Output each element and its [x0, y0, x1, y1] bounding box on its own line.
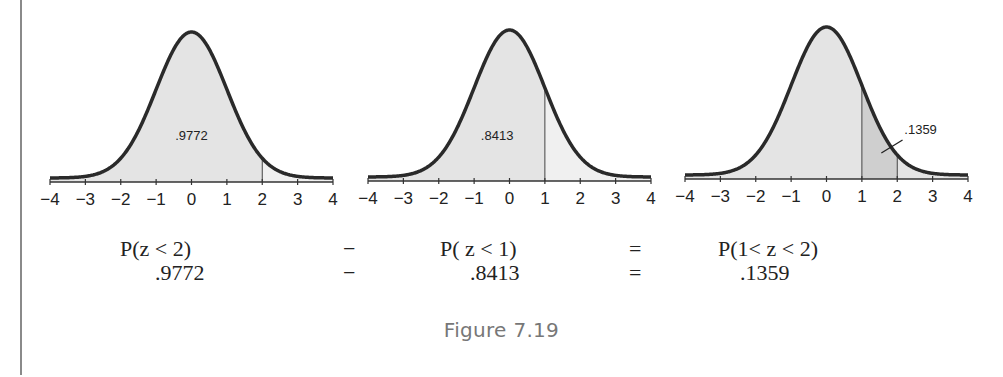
x-tick-label: −3: [76, 190, 95, 209]
x-tick-label: 4: [328, 190, 337, 209]
eq-row2-minus: −: [343, 260, 355, 286]
p-z-less-1-expression: P( z < 1): [440, 236, 517, 261]
minus-operator: −: [343, 260, 355, 285]
x-tick-label: −2: [429, 189, 448, 208]
chart-p-1-less-z-less-2: −4−3−2−101234.1359: [675, 27, 972, 206]
eq-row2-middle: .8413: [470, 260, 520, 286]
area-value-label: .8413: [481, 128, 514, 143]
area-value-label: .9772: [175, 128, 208, 143]
x-tick-label: 3: [611, 189, 620, 208]
eq-row2-right: .1359: [740, 260, 790, 286]
p-between-1-and-2-expression: P(1< z < 2): [718, 236, 818, 261]
equals-operator: =: [629, 236, 641, 261]
eq-row1-right: P(1< z < 2): [718, 236, 818, 262]
shaded-probability-region: [368, 30, 545, 181]
area-value-label: .1359: [904, 122, 937, 137]
x-tick-label: 1: [540, 189, 549, 208]
curve-background-fill: [685, 27, 968, 179]
x-tick-label: −1: [146, 190, 165, 209]
normal-curves-figure: −4−3−2−101234.9772 −4−3−2−101234.8413 −4…: [0, 0, 1003, 230]
chart-p-z-less-2: −4−3−2−101234.9772: [40, 32, 337, 209]
x-tick-label: 3: [293, 190, 302, 209]
eq-row1-left: P(z < 2): [120, 236, 191, 262]
chart-p-z-less-1: −4−3−2−101234.8413: [358, 30, 655, 208]
x-tick-label: −4: [675, 187, 694, 206]
x-tick-label: 0: [822, 187, 831, 206]
eq-row1-minus: −: [343, 236, 355, 262]
x-tick-label: 2: [258, 190, 267, 209]
x-tick-label: 1: [222, 190, 231, 209]
x-tick-label: 0: [505, 189, 514, 208]
value-8413: .8413: [470, 260, 520, 285]
x-tick-label: 2: [893, 187, 902, 206]
minus-operator: −: [343, 236, 355, 261]
eq-row2-equals: =: [629, 260, 641, 286]
equals-operator: =: [629, 260, 641, 285]
x-tick-label: −2: [746, 187, 765, 206]
p-z-less-2-expression: P(z < 2): [120, 236, 191, 261]
x-tick-label: −4: [40, 190, 59, 209]
value-9772: .9772: [155, 260, 205, 285]
x-tick-label: −3: [711, 187, 730, 206]
x-tick-label: 4: [963, 187, 972, 206]
value-1359: .1359: [740, 260, 790, 285]
x-tick-label: −1: [781, 187, 800, 206]
x-tick-label: 0: [187, 190, 196, 209]
x-tick-label: 3: [928, 187, 937, 206]
x-tick-label: −4: [358, 189, 377, 208]
x-tick-label: 4: [646, 189, 655, 208]
eq-row1-middle: P( z < 1): [440, 236, 517, 262]
eq-row1-equals: =: [629, 236, 641, 262]
x-tick-label: 2: [576, 189, 585, 208]
x-tick-label: −2: [111, 190, 130, 209]
x-tick-label: −3: [394, 189, 413, 208]
shaded-probability-region: [50, 32, 262, 182]
x-tick-label: 1: [857, 187, 866, 206]
figure-caption: Figure 7.19: [0, 318, 1003, 342]
x-tick-label: −1: [464, 189, 483, 208]
eq-row2-left: .9772: [155, 260, 205, 286]
